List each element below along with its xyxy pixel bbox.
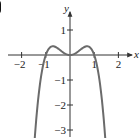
y-axis-label: y <box>63 2 69 14</box>
y-tick-label: 1 <box>61 24 67 36</box>
y-tick-label: −2 <box>54 99 66 111</box>
function-graph: −2−112 1−1−2−3 x y <box>0 0 140 138</box>
x-tick-label: 2 <box>116 58 122 70</box>
y-tick-label: −3 <box>54 124 66 136</box>
x-tick-label: −2 <box>14 58 26 70</box>
y-tick-label: −1 <box>54 74 66 86</box>
x-axis-label: x <box>133 48 139 60</box>
